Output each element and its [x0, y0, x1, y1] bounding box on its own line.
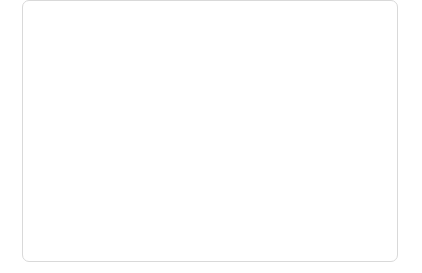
- chart-root: 70%75%80%85%90%95%100% 19911992199319941…: [0, 0, 422, 273]
- figure-frame: [22, 0, 398, 262]
